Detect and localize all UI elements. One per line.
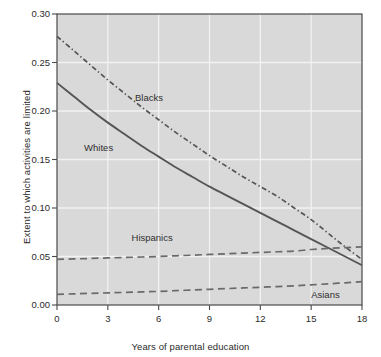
x-axis-tick-label: 6 xyxy=(144,313,174,324)
series-label-asians: Asians xyxy=(311,289,340,300)
chart-plot-area xyxy=(0,0,381,357)
y-axis-title-wrapper: Extent to which activities are limited xyxy=(16,27,34,307)
series-label-hispanics: Hispanics xyxy=(132,232,173,243)
chart-figure: 0.000.050.100.150.200.250.30 0369121518 … xyxy=(0,0,381,357)
x-axis-tick-label: 9 xyxy=(195,313,225,324)
x-axis-title-wrapper: Years of parental education xyxy=(0,336,381,354)
y-axis-tick-label: 0.30 xyxy=(14,8,50,19)
x-axis-tick-label: 12 xyxy=(245,313,275,324)
series-label-blacks: Blacks xyxy=(135,92,163,103)
y-axis-title: Extent to which activities are limited xyxy=(21,90,32,244)
x-axis-tick-label: 0 xyxy=(42,313,72,324)
x-axis-tick-label: 18 xyxy=(347,313,377,324)
x-axis-title: Years of parental education xyxy=(131,341,249,352)
x-axis-tick-label: 3 xyxy=(93,313,123,324)
x-axis-tick-label: 15 xyxy=(296,313,326,324)
series-label-whites: Whites xyxy=(84,142,113,153)
